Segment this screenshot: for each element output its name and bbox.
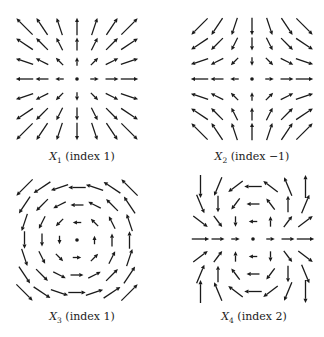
- caption-index-text: (index 1): [62, 310, 115, 323]
- caption-index-text: (index −1): [227, 150, 289, 163]
- vector-arrow-icon: [16, 108, 33, 119]
- vector-arrow-icon: [75, 108, 79, 121]
- vector-arrow-icon: [211, 93, 224, 99]
- zero-point-dot: [75, 238, 79, 242]
- vector-arrow-icon: [211, 108, 223, 120]
- vector-arrow-icon: [36, 77, 49, 81]
- vector-arrow-icon: [106, 123, 117, 140]
- vector-arrow-icon: [193, 251, 208, 262]
- vector-arrow-icon: [36, 93, 49, 99]
- vector-arrow-icon: [281, 38, 293, 50]
- vector-arrow-icon: [216, 196, 220, 213]
- vector-arrow-icon: [90, 77, 98, 81]
- vector-arrow-icon: [51, 185, 68, 191]
- vector-arrow-icon: [104, 182, 121, 193]
- vector-arrow-icon: [266, 38, 272, 51]
- vector-arrow-icon: [56, 108, 62, 121]
- vector-arrow-icon: [109, 251, 115, 264]
- vector-arrow-icon: [19, 197, 30, 214]
- vector-arrow-icon: [121, 38, 138, 49]
- vector-arrow-icon: [106, 93, 119, 99]
- vector-arrow-icon: [193, 216, 208, 227]
- vector-arrow-icon: [296, 38, 313, 49]
- vector-arrow-icon: [231, 108, 237, 121]
- vector-arrow-icon: [88, 202, 101, 208]
- vector-arrow-icon: [267, 123, 273, 140]
- caption-x3: X3 (index 1): [49, 310, 115, 325]
- vector-arrow-icon: [304, 175, 308, 198]
- caption-variable: X: [215, 150, 223, 163]
- vector-arrow-icon: [109, 216, 115, 229]
- vector-arrow-icon: [211, 77, 224, 81]
- vector-arrow-icon: [286, 196, 290, 213]
- vector-arrow-icon: [121, 123, 137, 139]
- vector-arrow-icon: [53, 272, 66, 278]
- vector-arrow-icon: [106, 77, 119, 81]
- zero-point-dot: [250, 77, 254, 81]
- vector-arrow-icon: [23, 231, 27, 248]
- vector-arrow-icon: [296, 77, 313, 81]
- vector-arrow-icon: [231, 198, 239, 209]
- vector-arrow-icon: [284, 216, 292, 227]
- vector-arrow-icon: [36, 38, 48, 50]
- vector-arrow-icon: [106, 58, 119, 64]
- vector-arrow-icon: [75, 18, 79, 35]
- vector-field-figure: [0, 0, 324, 337]
- vector-arrow-icon: [106, 108, 118, 120]
- vector-arrow-icon: [298, 216, 313, 227]
- vector-arrow-icon: [231, 93, 238, 100]
- vector-arrow-icon: [214, 216, 222, 227]
- vector-arrow-icon: [22, 249, 28, 266]
- vector-arrow-icon: [212, 237, 225, 241]
- vector-arrow-icon: [228, 286, 243, 297]
- vector-arrow-icon: [53, 202, 66, 208]
- vector-arrow-icon: [284, 282, 292, 301]
- vector-arrow-icon: [86, 289, 103, 295]
- vector-arrow-icon: [39, 216, 45, 229]
- vector-arrow-icon: [296, 93, 313, 99]
- vector-arrow-icon: [51, 290, 68, 296]
- vector-arrow-icon: [56, 38, 62, 51]
- vector-arrow-icon: [124, 197, 135, 214]
- vector-arrow-icon: [91, 58, 98, 65]
- vector-arrow-icon: [21, 214, 27, 231]
- vector-arrow-icon: [266, 58, 273, 65]
- caption-index-text: (index 1): [62, 150, 115, 163]
- vector-arrow-icon: [91, 219, 98, 226]
- vector-arrow-icon: [36, 199, 48, 211]
- vector-arrow-icon: [191, 77, 208, 81]
- vector-arrow-icon: [106, 38, 118, 50]
- vector-arrow-icon: [234, 216, 238, 226]
- vector-arrow-icon: [121, 94, 138, 100]
- vector-arrow-icon: [110, 234, 114, 247]
- vector-arrow-icon: [88, 272, 101, 278]
- vector-arrow-icon: [36, 18, 47, 35]
- vector-arrow-icon: [286, 266, 290, 283]
- vector-arrow-icon: [250, 18, 254, 35]
- vector-arrow-icon: [191, 59, 208, 65]
- vector-arrow-icon: [104, 287, 121, 298]
- vector-arrow-icon: [73, 221, 81, 225]
- vector-arrow-icon: [214, 177, 222, 196]
- vector-arrow-icon: [234, 251, 238, 261]
- vector-arrow-icon: [68, 291, 85, 295]
- vector-arrow-icon: [56, 254, 63, 261]
- vector-arrow-icon: [211, 38, 223, 50]
- vector-arrow-icon: [231, 123, 237, 140]
- vector-arrow-icon: [281, 58, 294, 64]
- vector-arrow-icon: [16, 123, 32, 139]
- vector-arrow-icon: [56, 219, 63, 226]
- vector-arrow-icon: [199, 280, 203, 303]
- vector-arrow-icon: [298, 251, 313, 262]
- vector-arrow-icon: [296, 123, 312, 139]
- vector-arrow-icon: [211, 123, 222, 140]
- vector-arrow-icon: [16, 179, 32, 195]
- vector-arrow-icon: [34, 182, 51, 193]
- vector-arrow-icon: [231, 38, 237, 51]
- caption-x1: X1 (index 1): [49, 150, 115, 165]
- vector-arrow-icon: [263, 181, 278, 192]
- vector-arrow-icon: [266, 108, 272, 121]
- vector-arrow-icon: [266, 93, 273, 100]
- vector-arrow-icon: [126, 214, 132, 231]
- vector-arrow-icon: [265, 77, 273, 81]
